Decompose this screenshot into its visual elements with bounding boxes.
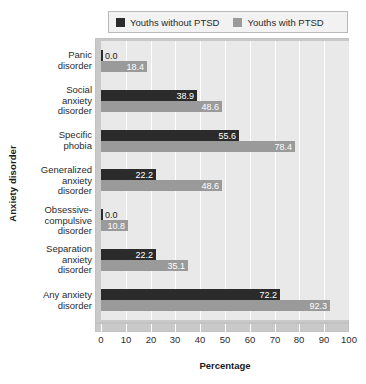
plot-area: 0.018.438.948.655.678.422.248.60.010.822… bbox=[101, 41, 349, 320]
y-axis-tick-label: Separationanxietydisorder bbox=[4, 244, 92, 276]
y-tick-line: phobia bbox=[4, 141, 92, 152]
y-tick-line: Generalized bbox=[4, 165, 92, 176]
x-tick-mark bbox=[101, 324, 102, 333]
y-tick-line: disorder bbox=[4, 106, 92, 117]
y-tick-line: Separation bbox=[4, 244, 92, 255]
x-tick-mark bbox=[225, 324, 226, 333]
bar-value-label: 18.4 bbox=[126, 62, 147, 72]
bar-value-label: 48.6 bbox=[201, 102, 222, 112]
y-tick-line: disorder bbox=[4, 301, 92, 312]
y-axis-tick-label: Specificphobia bbox=[4, 130, 92, 151]
bar-value-label: 0.0 bbox=[102, 51, 118, 61]
y-axis-tick-labels: PanicdisorderSocialanxietydisorderSpecif… bbox=[0, 41, 92, 320]
x-tick-mark bbox=[200, 324, 201, 333]
bar: 22.2 bbox=[101, 249, 156, 260]
legend-label: Youths without PTSD bbox=[130, 17, 219, 28]
y-tick-line: Any anxiety bbox=[4, 290, 92, 301]
x-tick-mark bbox=[349, 324, 350, 333]
x-axis-title: Percentage bbox=[101, 360, 349, 371]
x-tick-mark bbox=[250, 324, 251, 333]
bar: 38.9 bbox=[101, 90, 197, 101]
bar-value-label: 72.2 bbox=[259, 290, 280, 300]
legend-label: Youths with PTSD bbox=[247, 17, 323, 28]
bar-value-label: 22.2 bbox=[135, 250, 156, 260]
bar-value-label: 0.0 bbox=[102, 210, 118, 220]
chart-legend: Youths without PTSD Youths with PTSD bbox=[108, 11, 348, 33]
x-tick-mark bbox=[299, 324, 300, 333]
gridline bbox=[275, 41, 276, 320]
bar-value-label: 22.2 bbox=[135, 170, 156, 180]
x-axis-band bbox=[95, 323, 349, 332]
bar: 48.6 bbox=[101, 180, 222, 191]
y-axis-tick-label: Generalizedanxietydisorder bbox=[4, 165, 92, 197]
y-tick-line: disorder bbox=[4, 226, 92, 237]
y-tick-line: Specific bbox=[4, 130, 92, 141]
legend-item-youths-with-ptsd: Youths with PTSD bbox=[233, 17, 323, 28]
y-tick-line: disorder bbox=[4, 61, 92, 72]
y-axis-tick-label: Panicdisorder bbox=[4, 50, 92, 71]
bar-value-label: 35.1 bbox=[167, 261, 188, 271]
y-tick-line: disorder bbox=[4, 186, 92, 197]
bar: 55.6 bbox=[101, 130, 239, 141]
bar: 72.2 bbox=[101, 289, 280, 300]
y-tick-line: Panic bbox=[4, 50, 92, 61]
x-tick-mark bbox=[275, 324, 276, 333]
y-tick-line: Social bbox=[4, 85, 92, 96]
gridline bbox=[299, 41, 300, 320]
y-axis-tick-label: Socialanxietydisorder bbox=[4, 85, 92, 117]
x-axis-tick-label: 100 bbox=[334, 334, 364, 345]
x-tick-mark bbox=[175, 324, 176, 333]
bar-value-label: 55.6 bbox=[218, 131, 239, 141]
legend-item-youths-without-ptsd: Youths without PTSD bbox=[116, 17, 219, 28]
bar-value-label: 78.4 bbox=[274, 142, 295, 152]
legend-swatch-icon bbox=[116, 18, 125, 27]
y-axis-tick-label: Any anxietydisorder bbox=[4, 290, 92, 311]
chart-figure: Youths without PTSD Youths with PTSD Anx… bbox=[0, 0, 366, 384]
bar: 92.3 bbox=[101, 300, 330, 311]
bar: 35.1 bbox=[101, 260, 188, 271]
bar: 22.2 bbox=[101, 169, 156, 180]
bar-value-label: 48.6 bbox=[201, 181, 222, 191]
bar-value-label: 38.9 bbox=[176, 91, 197, 101]
y-tick-line: disorder bbox=[4, 265, 92, 276]
x-tick-mark bbox=[324, 324, 325, 333]
bar: 78.4 bbox=[101, 141, 295, 152]
legend-swatch-icon bbox=[233, 18, 242, 27]
bar: 48.6 bbox=[101, 101, 222, 112]
bar-value-label: 10.8 bbox=[107, 221, 128, 231]
y-tick-line: Obsessive- bbox=[4, 205, 92, 216]
gridline bbox=[250, 41, 251, 320]
bar: 18.4 bbox=[101, 61, 147, 72]
x-axis-tick-labels: 0102030405060708090100 bbox=[0, 334, 366, 348]
x-tick-mark bbox=[126, 324, 127, 333]
y-axis-tick-label: Obsessive-compulsivedisorder bbox=[4, 205, 92, 237]
bar: 10.8 bbox=[101, 220, 128, 231]
bar-value-label: 92.3 bbox=[309, 301, 330, 311]
gridline bbox=[324, 41, 325, 320]
gridline bbox=[225, 41, 226, 320]
x-tick-mark bbox=[151, 324, 152, 333]
